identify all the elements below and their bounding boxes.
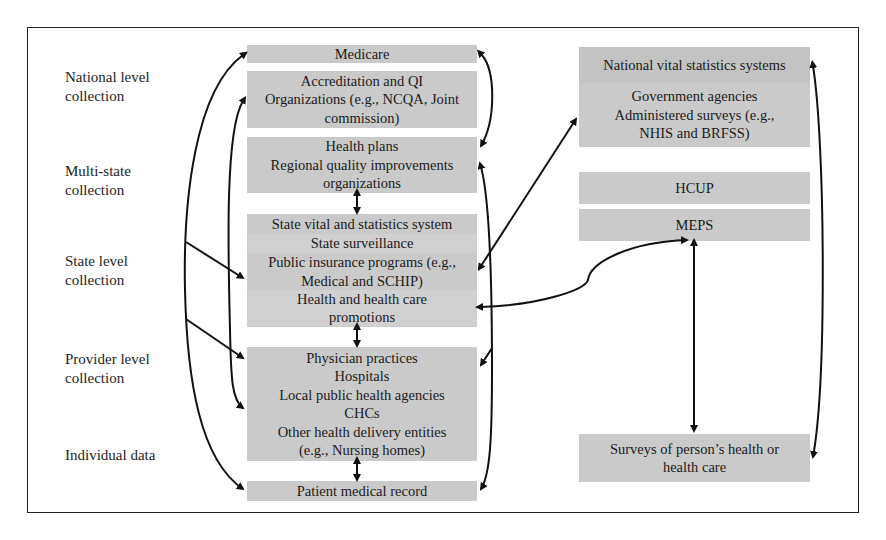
box-surveys-persons-health: Surveys of person’s health or health car… [579,434,810,482]
box-text: Medical and SCHIP) [301,272,423,291]
label-provider-level: Provider level collection [65,350,150,388]
box-text: Local public health agencies [279,386,444,405]
box-text: promotions [329,308,395,327]
box-provider-level: Physician practices Hospitals Local publ… [247,347,477,461]
box-text: MEPS [676,216,714,235]
band-public-insurance: Public insurance programs (e.g., Medical… [247,253,477,290]
box-patient-medical-record: Patient medical record [247,481,477,501]
box-text: State vital and statistics system [272,215,452,234]
label-line: collection [65,271,128,290]
label-state-level: State level collection [65,252,128,290]
box-text: (e.g., Nursing homes) [299,441,425,460]
box-text: Public insurance programs (e.g., [268,253,456,272]
label-line: Provider level [65,350,150,369]
box-text: Health and health care [297,290,427,309]
band-state-vital: State vital and statistics system [247,215,477,234]
box-text: CHCs [344,404,379,423]
box-text: NHIS and BRFSS) [639,124,749,143]
box-text: State surveillance [311,234,414,253]
box-text: National vital statistics systems [603,56,785,75]
label-line: Individual data [65,446,155,465]
box-meps: MEPS [579,209,810,241]
box-hcup: HCUP [579,172,810,204]
label-line: National level [65,68,150,87]
box-text: Health plans [326,137,399,156]
box-text: organizations [323,174,401,193]
box-text: Government agencies [631,87,757,106]
box-text: Surveys of person’s health or [610,440,779,459]
label-line: collection [65,369,150,388]
label-individual-data: Individual data [65,446,155,465]
box-government-agencies: Government agencies Administered surveys… [579,83,810,147]
label-multi-state: Multi-state collection [65,162,131,200]
box-text: commission) [325,109,400,128]
box-text: Organizations (e.g., NCQA, Joint [265,90,459,109]
band-state-surveillance: State surveillance [247,234,477,253]
box-health-plans: Health plans Regional quality improvemen… [247,137,477,193]
label-line: State level [65,252,128,271]
box-text: Administered surveys (e.g., [615,106,775,125]
box-text: Patient medical record [297,482,427,501]
box-medicare: Medicare [247,45,477,63]
box-accreditation-qi: Accreditation and QI Organizations (e.g.… [247,71,477,128]
band-health-promotions: Health and health care promotions [247,290,477,326]
label-line: collection [65,87,150,106]
box-national-vital-statistics: National vital statistics systems [579,47,810,83]
box-text: health care [663,458,726,477]
box-text: Regional quality improvements [271,156,454,175]
box-text: Medicare [335,45,390,64]
box-text: Other health delivery entities [278,423,447,442]
box-text: HCUP [675,179,714,198]
label-national-level: National level collection [65,68,150,106]
box-state-level: State vital and statistics system State … [247,214,477,327]
box-text: Physician practices [306,349,418,368]
label-line: Multi-state [65,162,131,181]
label-line: collection [65,181,131,200]
box-text: Hospitals [335,367,390,386]
box-text: Accreditation and QI [301,72,423,91]
